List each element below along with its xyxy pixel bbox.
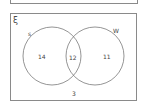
set-w-label: W: [113, 27, 119, 34]
region-only-w-value: 11: [103, 53, 111, 60]
universal-set-symbol: ξ: [13, 15, 18, 25]
region-intersection-value: 12: [69, 54, 77, 61]
region-only-s-value: 14: [38, 53, 46, 60]
set-s-label: s: [28, 30, 31, 37]
venn-diagram: ξ s W 14 12 11 3: [0, 0, 141, 101]
region-outside-value: 3: [72, 90, 76, 97]
